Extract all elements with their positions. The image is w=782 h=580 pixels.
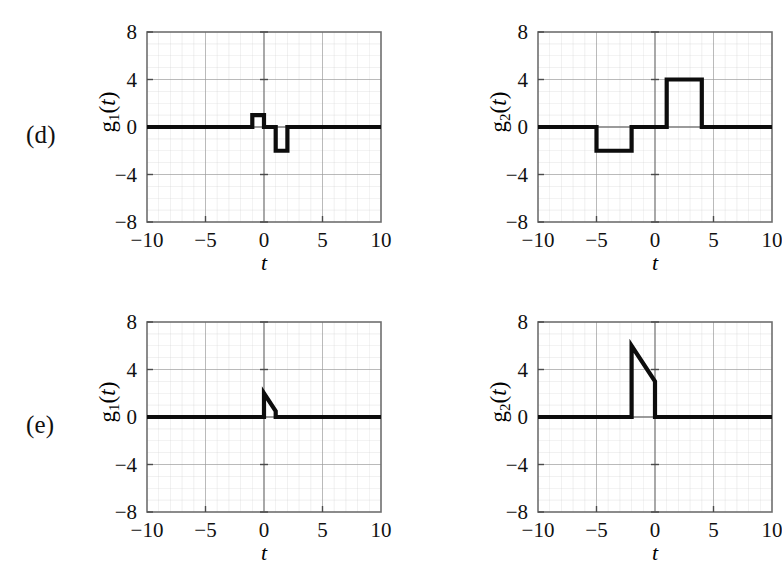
x-tick-label: 5 <box>708 228 719 252</box>
x-tick-label: 0 <box>259 228 270 252</box>
figure-row-e: (e) g1(t) 840−4−8−10−50510 t g2(t) 840−4… <box>0 290 782 580</box>
y-tick-label: 8 <box>127 20 138 44</box>
x-axis-label-d2: t <box>538 252 772 274</box>
x-tick-label: −10 <box>522 518 555 542</box>
figure-row-d: (d) g1(t) 840−4−8−10−50510 t g2(t) 840−4… <box>0 0 782 290</box>
y-tick-label: 0 <box>518 405 529 429</box>
y-tick-label: 4 <box>518 68 529 92</box>
y-tick-label: 4 <box>127 68 138 92</box>
y-tick-label: −4 <box>506 163 529 187</box>
x-tick-label: −5 <box>585 228 607 252</box>
x-tick-label: 0 <box>259 518 270 542</box>
x-tick-label: −5 <box>585 518 607 542</box>
panel-d2: g2(t) 840−4−8−10−50510 t <box>391 0 782 290</box>
y-tick-label: 4 <box>518 358 529 382</box>
x-axis-label-e2: t <box>538 542 772 564</box>
plot-e2: 840−4−8−10−50510 <box>391 290 782 580</box>
x-tick-label: 10 <box>371 518 392 542</box>
x-tick-label: 10 <box>371 228 392 252</box>
y-tick-label: 0 <box>127 405 138 429</box>
y-tick-label: −4 <box>115 163 138 187</box>
x-tick-label: 10 <box>762 228 782 252</box>
x-tick-label: −10 <box>131 518 164 542</box>
y-tick-label: 8 <box>127 310 138 334</box>
x-tick-label: 0 <box>650 518 661 542</box>
panel-e2: g2(t) 840−4−8−10−50510 t <box>391 290 782 580</box>
plot-e1: 840−4−8−10−50510 <box>0 290 391 580</box>
y-tick-label: 4 <box>127 358 138 382</box>
y-tick-label: −4 <box>506 453 529 477</box>
y-tick-label: 8 <box>518 20 529 44</box>
x-tick-label: −10 <box>131 228 164 252</box>
y-tick-label: −4 <box>115 453 138 477</box>
y-tick-label: 0 <box>127 115 138 139</box>
x-tick-label: 5 <box>708 518 719 542</box>
x-tick-label: 0 <box>650 228 661 252</box>
plot-d2: 840−4−8−10−50510 <box>391 0 782 290</box>
x-tick-label: −5 <box>194 228 216 252</box>
x-tick-label: 10 <box>762 518 782 542</box>
panel-d1: g1(t) 840−4−8−10−50510 t <box>0 0 391 290</box>
x-axis-label-d1: t <box>147 252 381 274</box>
x-tick-label: −5 <box>194 518 216 542</box>
y-tick-label: 8 <box>518 310 529 334</box>
x-tick-label: 5 <box>317 518 328 542</box>
plot-d1: 840−4−8−10−50510 <box>0 0 391 290</box>
y-tick-label: 0 <box>518 115 529 139</box>
figure-container: (d) g1(t) 840−4−8−10−50510 t g2(t) 840−4… <box>0 0 782 580</box>
x-tick-label: −10 <box>522 228 555 252</box>
x-tick-label: 5 <box>317 228 328 252</box>
x-axis-label-e1: t <box>147 542 381 564</box>
panel-e1: g1(t) 840−4−8−10−50510 t <box>0 290 391 580</box>
